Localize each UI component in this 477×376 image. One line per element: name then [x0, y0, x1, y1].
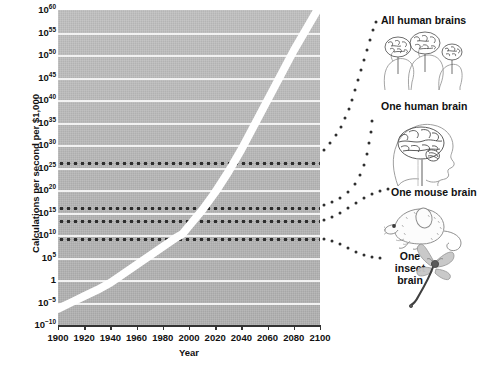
gridline: [58, 55, 320, 57]
y-axis-tick-label: 1055: [2, 27, 56, 38]
x-axis-tick-mark: [163, 325, 164, 330]
x-axis-tick-mark: [241, 325, 242, 330]
x-axis-tick-mark: [189, 325, 190, 330]
gridline: [58, 190, 320, 192]
plot-area: [58, 10, 320, 325]
y-axis-tick-label: 1060: [2, 4, 56, 15]
y-axis-tick-labels: 1060105510501045104010351030102510201015…: [0, 0, 56, 376]
gridline: [58, 145, 320, 147]
gridline: [58, 235, 320, 237]
x-axis-tick-label: 2100: [309, 332, 330, 343]
gridline: [58, 258, 320, 260]
x-axis-tick-mark: [84, 325, 85, 330]
gridline: [58, 33, 320, 35]
x-axis-tick-label: 1980: [152, 332, 173, 343]
x-axis-tick-mark: [110, 325, 111, 330]
gridline: [58, 213, 320, 215]
gridline: [58, 303, 320, 305]
gridline: [58, 100, 320, 102]
reference-line-one-mouse-brain: [58, 220, 320, 223]
x-axis-tick-mark: [58, 325, 59, 330]
y-axis-tick-label: 1050: [2, 49, 56, 60]
reference-line-one-insect-brain: [58, 238, 320, 241]
y-axis-tick-label: 1030: [2, 139, 56, 150]
annotation-label-one-human-brain: One human brain: [381, 100, 467, 112]
three-human-head-brain-profiles-icon: [379, 30, 463, 92]
y-axis-tick-label: 1045: [2, 72, 56, 83]
y-axis-tick-label: 10−10: [2, 319, 56, 330]
reference-line-one-human-brain: [58, 207, 320, 210]
x-axis-tick-mark: [215, 325, 216, 330]
gridline: [58, 168, 320, 170]
y-axis-tick-label: 1040: [2, 94, 56, 105]
annotation-label-one-mouse-brain: One mouse brain: [391, 186, 477, 198]
x-axis-tick-label: 1920: [74, 332, 95, 343]
x-axis-title: Year: [58, 347, 320, 358]
x-axis-tick-mark: [294, 325, 295, 330]
y-axis-tick-label: 1035: [2, 117, 56, 128]
x-axis-tick-label: 2020: [205, 332, 226, 343]
x-axis-tick-label: 2040: [231, 332, 252, 343]
y-axis-tick-label: 105: [2, 252, 56, 263]
human-head-brain-profile-icon: [385, 116, 463, 186]
x-axis-tick-label: 1940: [100, 332, 121, 343]
x-axis-tick-label: 2000: [178, 332, 199, 343]
x-axis-tick-label: 2080: [283, 332, 304, 343]
dragonfly-illustration-icon: [400, 240, 463, 310]
y-axis-tick-label: 1: [2, 274, 56, 285]
x-axis-tick-mark: [320, 325, 321, 330]
x-axis-tick-label: 1900: [47, 332, 68, 343]
annotation-label-all-human-brains: All human brains: [381, 14, 466, 26]
reference-line-all-human-brains: [58, 162, 320, 165]
x-axis-tick-mark: [137, 325, 138, 330]
gridline: [58, 78, 320, 80]
y-axis-tick-label: 1020: [2, 184, 56, 195]
y-axis-tick-label: 1015: [2, 207, 56, 218]
x-axis-tick-mark: [268, 325, 269, 330]
y-axis-tick-label: 1010: [2, 229, 56, 240]
x-axis-tick-label: 1960: [126, 332, 147, 343]
y-axis-tick-label: 1025: [2, 162, 56, 173]
gridline: [58, 280, 320, 282]
x-axis-tick-label: 2060: [257, 332, 278, 343]
gridline: [58, 123, 320, 125]
y-axis-tick-label: 10−5: [2, 297, 56, 308]
